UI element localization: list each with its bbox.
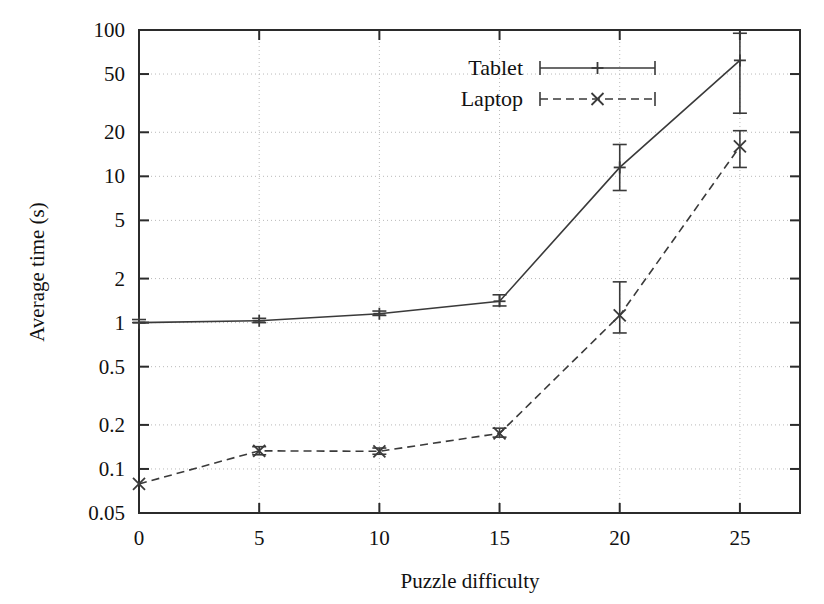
- y-tick-label: 50: [104, 62, 125, 86]
- y-tick-label: 0.05: [88, 501, 125, 525]
- y-tick-label: 20: [104, 120, 125, 144]
- x-axis-label: Puzzle difficulty: [401, 569, 540, 593]
- y-tick-label: 0.5: [99, 355, 125, 379]
- x-tick-label: 10: [369, 526, 390, 550]
- x-tick-label: 15: [489, 526, 510, 550]
- y-tick-label: 0.2: [99, 413, 125, 437]
- y-tick-label: 1: [115, 311, 126, 335]
- x-tick-label: 20: [609, 526, 630, 550]
- chart-figure: 1005020105210.50.20.10.05 0510152025 Tab…: [0, 0, 824, 604]
- x-tick-label: 25: [729, 526, 750, 550]
- x-tick-label: 5: [254, 526, 265, 550]
- y-tick-label: 100: [94, 18, 126, 42]
- y-tick-label: 10: [104, 164, 125, 188]
- y-tick-label: 2: [115, 267, 126, 291]
- y-axis-label: Average time (s): [25, 202, 49, 342]
- y-tick-label: 5: [115, 208, 126, 232]
- legend-label: Tablet: [468, 55, 523, 80]
- y-tick-label: 0.1: [99, 457, 125, 481]
- line-chart: 1005020105210.50.20.10.05 0510152025 Tab…: [0, 0, 824, 604]
- legend-label: Laptop: [461, 86, 523, 111]
- x-tick-label: 0: [134, 526, 145, 550]
